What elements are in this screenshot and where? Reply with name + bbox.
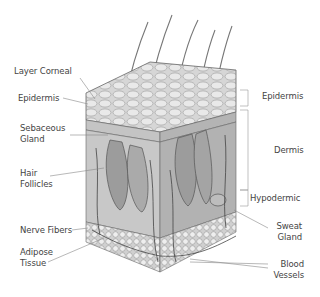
label-blood-vessels-line1: Blood [281, 259, 305, 270]
label-blood-vessels-line2: Vessels [273, 270, 304, 281]
label-hair-follicles-line1: Hair [20, 168, 37, 179]
label-sebaceous-gland-line1: Sebaceous [20, 123, 65, 134]
skin-diagram: Layer Corneal Epidermis Sebaceous Gland … [0, 0, 320, 297]
label-nerve-fibers: Nerve Fibers [20, 225, 72, 236]
layer-brackets [240, 90, 248, 206]
label-adipose-tissue-line2: Tissue [20, 258, 46, 269]
label-hypodermic: Hypodermic [250, 193, 300, 204]
label-sebaceous-gland-line2: Gland [20, 134, 44, 145]
label-hair-follicles-line2: Follicles [20, 179, 53, 190]
label-layer-corneal: Layer Corneal [14, 66, 72, 77]
label-epidermis-right: Epidermis [262, 91, 303, 102]
label-sweat-gland-line2: Gland [278, 232, 302, 243]
label-adipose-tissue-line1: Adipose [20, 247, 53, 258]
label-sweat-gland-line1: Sweat [276, 221, 302, 232]
label-dermis: Dermis [274, 145, 304, 156]
label-epidermis-left: Epidermis [18, 93, 59, 104]
